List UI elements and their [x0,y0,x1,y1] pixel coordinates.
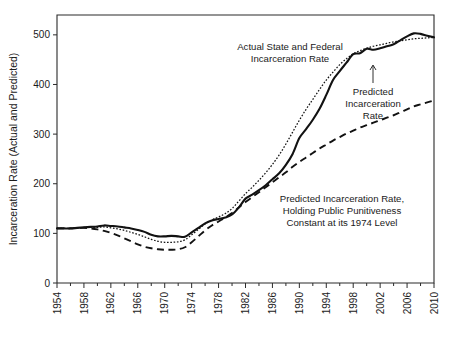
x-tick-label: 1986 [267,292,278,315]
y-tick-label: 300 [33,129,50,140]
annotation-counterfactual-line3: Constant at its 1974 Level [287,217,398,228]
y-axis-ticks: 0100200300400500 [33,29,57,288]
annotation-counterfactual-line2: Holding Public Punitiveness [283,205,402,216]
y-tick-label: 200 [33,178,50,189]
x-tick-label: 1982 [240,292,251,315]
chart-figure: 0100200300400500 19541958196219661970197… [0,0,458,337]
annotation-predicted-line3: Rate [363,110,383,121]
annotation-predicted-line2: Incarceration [345,98,400,109]
x-axis-ticks: 1954195819621966197019741978198219861990… [52,283,440,314]
x-tick-label: 2006 [402,292,413,315]
x-tick-label: 2002 [375,292,386,315]
x-tick-label: 1974 [186,292,197,315]
axes [57,15,434,283]
incarceration-rate-line-chart: 0100200300400500 19541958196219661970197… [0,0,458,337]
y-tick-label: 0 [44,278,50,289]
annotation-counterfactual-line1: Predicted Incarceration Rate, [280,193,404,204]
annotation-actual-line1: Actual State and Federal [237,41,343,52]
x-tick-label: 1958 [79,292,90,315]
x-tick-label: 1966 [132,292,143,315]
y-axis-title: Incarceration Rate (Actual and Predicted… [7,53,19,246]
x-tick-label: 1998 [348,292,359,315]
annotation-counterfactual: Predicted Incarceration Rate, Holding Pu… [280,193,404,228]
x-tick-label: 2010 [429,292,440,315]
x-tick-label: 1962 [105,292,116,315]
annotation-predicted: Predicted Incarceration Rate [345,65,400,121]
y-tick-label: 100 [33,228,50,239]
y-tick-label: 500 [33,29,50,40]
axis-frame [57,15,434,283]
x-tick-label: 1970 [159,292,170,315]
annotation-predicted-line1: Predicted [353,86,394,97]
x-tick-label: 1994 [321,292,332,315]
x-tick-label: 1954 [52,292,63,315]
annotation-actual-line2: Incarceration Rate [251,53,329,64]
annotation-actual: Actual State and Federal Incarceration R… [237,41,343,64]
y-tick-label: 400 [33,79,50,90]
x-tick-label: 1978 [213,292,224,315]
x-tick-label: 1990 [294,292,305,315]
